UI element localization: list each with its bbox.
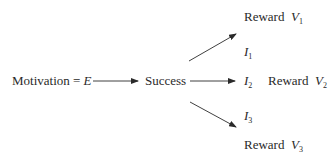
i2-subscript: 2 — [248, 81, 252, 90]
i2-label: I2 — [244, 74, 252, 93]
reward2-label: Reward — [268, 73, 308, 88]
reward3-node: Reward V3 — [244, 138, 303, 157]
i3-subscript: 3 — [248, 116, 252, 125]
success-node: Success — [145, 74, 186, 88]
reward3-variable: V — [291, 137, 299, 152]
reward2-subscript: 2 — [323, 81, 327, 90]
arrow-success-to-reward1 — [189, 34, 236, 61]
arrow-success-to-reward3 — [190, 102, 236, 127]
reward1-subscript: 1 — [299, 17, 303, 26]
reward1-label: Reward — [244, 9, 284, 24]
i1-subscript: 1 — [248, 52, 252, 61]
reward3-subscript: 3 — [299, 145, 303, 154]
motivation-label: Motivation = — [12, 73, 84, 88]
reward1-node: Reward V1 — [244, 10, 303, 29]
i3-label: I3 — [244, 109, 252, 128]
motivation-variable: E — [84, 73, 92, 88]
reward3-label: Reward — [244, 137, 284, 152]
i1-label: I1 — [244, 45, 252, 64]
motivation-node: Motivation = E — [12, 74, 92, 88]
reward2-node: Reward V2 — [268, 74, 327, 93]
reward1-variable: V — [291, 9, 299, 24]
success-label: Success — [145, 73, 186, 88]
reward2-variable: V — [315, 73, 323, 88]
